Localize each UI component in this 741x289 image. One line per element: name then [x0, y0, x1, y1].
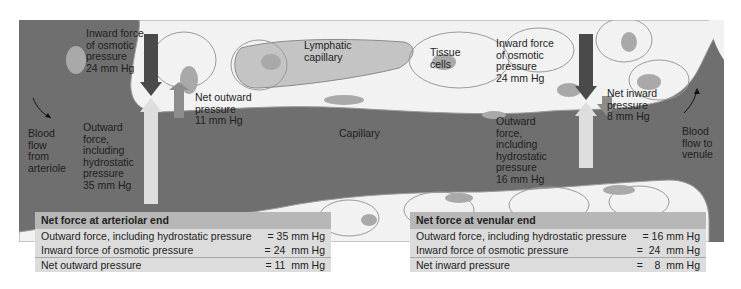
- row-label: Inward force of osmotic pressure: [416, 243, 568, 257]
- venular-outward-arrow-icon: [575, 102, 597, 168]
- row-value: = 11 mm Hg: [265, 258, 325, 272]
- row-label: Inward force of osmotic pressure: [41, 243, 193, 257]
- table-row: Net inward pressure = 8 mm Hg: [410, 257, 706, 272]
- arteriolar-outward-label: Outward force, including hydrostatic pre…: [83, 122, 134, 192]
- venular-outward-label: Outward force, including hydrostatic pre…: [496, 116, 547, 186]
- row-value: = 8 mm Hg: [637, 258, 700, 272]
- venular-inward-label: Inward force of osmotic pressure 24 mm H…: [496, 38, 554, 84]
- capillary-diagram: Inward force of osmotic pressure 24 mm H…: [19, 20, 724, 242]
- row-label: Outward force, including hydrostatic pre…: [416, 229, 627, 243]
- arteriolar-outward-arrow-icon: [140, 98, 162, 204]
- row-value: = 24 mm Hg: [265, 243, 325, 257]
- table-row: Net outward pressure = 11 mm Hg: [35, 257, 331, 272]
- table-row: Outward force, including hydrostatic pre…: [35, 229, 331, 243]
- row-value: = 24 mm Hg: [637, 243, 700, 257]
- capillary-label: Capillary: [339, 128, 380, 140]
- table-row: Inward force of osmotic pressure = 24 mm…: [410, 243, 706, 257]
- row-value: = 35 mm Hg: [268, 229, 325, 243]
- venular-table-title: Net force at venular end: [410, 212, 706, 229]
- row-value: = 16 mm Hg: [643, 229, 700, 243]
- table-row: Outward force, including hydrostatic pre…: [410, 229, 706, 243]
- blood-out-label: Blood flow to venule: [682, 126, 713, 161]
- venular-net-force-table: Net force at venular end Outward force, …: [410, 212, 706, 272]
- table-row: Inward force of osmotic pressure = 24 mm…: [35, 243, 331, 257]
- arteriolar-net-label: Net outward pressure 11 mm Hg: [195, 92, 252, 127]
- lymphatic-label: Lymphatic capillary: [304, 40, 351, 63]
- row-label: Net outward pressure: [41, 258, 141, 272]
- row-label: Outward force, including hydrostatic pre…: [41, 229, 252, 243]
- arteriolar-inward-label: Inward force of osmotic pressure 24 mm H…: [86, 28, 144, 74]
- arteriolar-table-title: Net force at arteriolar end: [35, 212, 331, 229]
- row-label: Net inward pressure: [416, 258, 510, 272]
- venular-net-label: Net inward pressure 8 mm Hg: [607, 88, 657, 123]
- blood-in-label: Blood flow from arteriole: [28, 128, 66, 174]
- arteriolar-net-force-table: Net force at arteriolar end Outward forc…: [35, 212, 331, 272]
- tissue-label: Tissue cells: [430, 47, 461, 70]
